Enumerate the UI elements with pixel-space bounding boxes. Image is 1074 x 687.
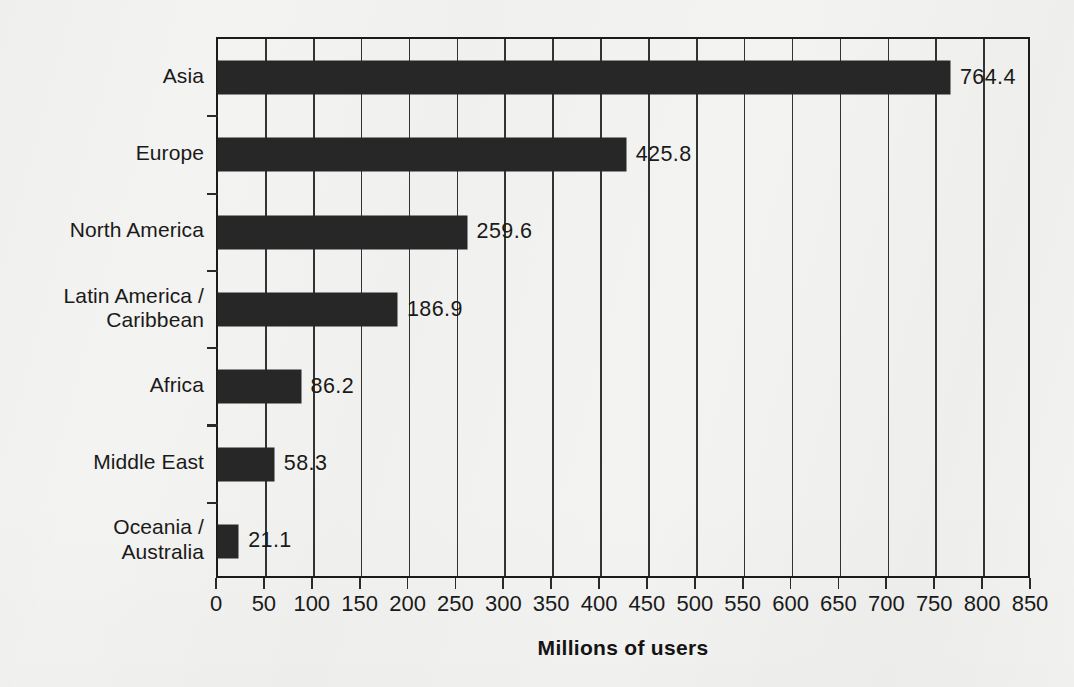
- y-axis-tick: [207, 424, 218, 426]
- x-axis-tick: [646, 578, 648, 589]
- bar-value-label: 86.2: [311, 376, 354, 398]
- gridline: [888, 39, 890, 576]
- x-axis-tick-label: 200: [389, 591, 426, 617]
- category-label: Asia: [0, 64, 204, 88]
- bar: [218, 61, 950, 94]
- bar: [218, 448, 274, 481]
- gridline: [552, 39, 554, 576]
- x-axis-tick: [694, 578, 696, 589]
- x-axis-tick: [215, 578, 217, 589]
- x-axis-tick: [742, 578, 744, 589]
- gridline: [696, 39, 698, 576]
- bar-chart: AsiaEuropeNorth AmericaLatin America / C…: [0, 0, 1074, 687]
- category-label: Middle East: [0, 450, 204, 474]
- x-axis-tick: [359, 578, 361, 589]
- bar-value-label: 186.9: [407, 299, 463, 321]
- y-axis-tick: [207, 193, 218, 195]
- x-axis-tick: [598, 578, 600, 589]
- category-label: North America: [0, 218, 204, 242]
- gridline: [600, 39, 602, 576]
- x-axis-tick: [981, 578, 983, 589]
- x-axis-title: Millions of users: [216, 636, 1030, 660]
- x-axis-tick-label: 100: [293, 591, 330, 617]
- x-axis-tick-label: 750: [916, 591, 953, 617]
- x-axis-tick: [263, 578, 265, 589]
- x-axis-tick-label: 300: [485, 591, 522, 617]
- x-axis-tick-label: 450: [629, 591, 666, 617]
- category-label: Latin America / Caribbean: [0, 284, 204, 333]
- y-axis-tick: [207, 502, 218, 504]
- x-axis-tick-label: 350: [533, 591, 570, 617]
- gridline: [648, 39, 650, 576]
- x-axis-tick: [311, 578, 313, 589]
- x-axis-tick: [838, 578, 840, 589]
- bar: [218, 138, 626, 171]
- bar-value-label: 21.1: [248, 530, 291, 552]
- bar-value-label: 764.4: [960, 67, 1016, 89]
- x-axis-tick-label: 500: [676, 591, 713, 617]
- category-label: Oceania / Australia: [0, 515, 204, 564]
- gridline: [792, 39, 794, 576]
- x-axis-tick-label: 550: [724, 591, 761, 617]
- x-axis-tick-label: 50: [252, 591, 276, 617]
- x-axis-tick: [790, 578, 792, 589]
- gridline: [744, 39, 746, 576]
- bar-value-label: 259.6: [477, 221, 533, 243]
- category-label: Africa: [0, 373, 204, 397]
- bar-value-label: 58.3: [284, 453, 327, 475]
- x-axis-tick-label: 800: [964, 591, 1001, 617]
- x-axis-tick: [502, 578, 504, 589]
- x-axis-tick-label: 850: [1012, 591, 1049, 617]
- x-axis-tick: [550, 578, 552, 589]
- gridline: [840, 39, 842, 576]
- bar-value-label: 425.8: [636, 144, 692, 166]
- gridline: [983, 39, 985, 576]
- x-axis-tick-label: 0: [210, 591, 222, 617]
- x-axis-tick-label: 600: [772, 591, 809, 617]
- x-axis-tick: [455, 578, 457, 589]
- value-axis-ticks: 0501001502002503003504004505005506006507…: [216, 578, 1030, 608]
- bar: [218, 525, 238, 558]
- x-axis-tick: [1029, 578, 1031, 589]
- bar: [218, 293, 397, 326]
- x-axis-tick-label: 150: [341, 591, 378, 617]
- y-axis-tick: [207, 270, 218, 272]
- category-label: Europe: [0, 141, 204, 165]
- plot-area: 764.4425.8259.6186.986.258.321.1: [216, 37, 1030, 578]
- bar: [218, 370, 301, 403]
- bar: [218, 216, 467, 249]
- x-axis-tick-label: 700: [868, 591, 905, 617]
- x-axis-tick-label: 650: [820, 591, 857, 617]
- y-axis-tick: [207, 347, 218, 349]
- x-axis-tick: [407, 578, 409, 589]
- x-axis-tick-label: 400: [581, 591, 618, 617]
- category-axis-labels: AsiaEuropeNorth AmericaLatin America / C…: [0, 37, 204, 578]
- gridline: [935, 39, 937, 576]
- x-axis-tick: [885, 578, 887, 589]
- gridline: [504, 39, 506, 576]
- x-axis-tick-label: 250: [437, 591, 474, 617]
- y-axis-tick: [207, 115, 218, 117]
- x-axis-tick: [933, 578, 935, 589]
